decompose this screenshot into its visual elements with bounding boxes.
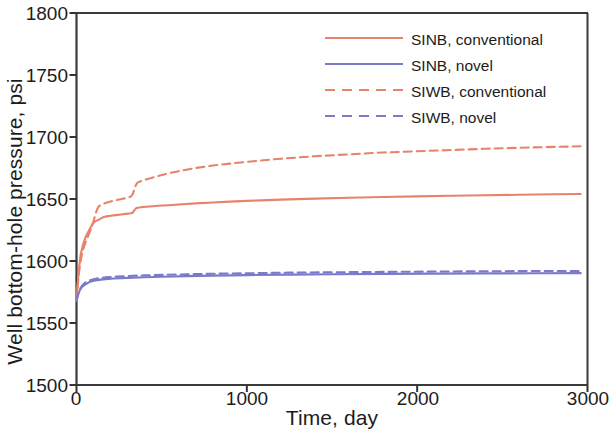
y-tick-label-1750: 1750 (6, 65, 68, 87)
series-line-3 (77, 271, 581, 301)
legend-label-siwb-novel: SIWB, novel (411, 109, 496, 127)
series-line-0 (77, 194, 581, 301)
x-tick-label-1000: 1000 (212, 388, 282, 410)
x-tick-label-0: 0 (41, 388, 111, 410)
y-tick-label-1650: 1650 (6, 189, 68, 211)
y-tick-label-1600: 1600 (6, 251, 68, 273)
legend-swatches (325, 38, 403, 116)
legend-label-sinb-conventional: SINB, conventional (411, 31, 543, 49)
y-tick-label-1700: 1700 (6, 127, 68, 149)
y-tick-label-1800: 1800 (6, 3, 68, 25)
x-tick-label-3000: 3000 (553, 388, 613, 410)
x-axis-title: Time, day (76, 406, 588, 430)
data-series-layer (77, 146, 581, 300)
y-tick-label-1550: 1550 (6, 313, 68, 335)
legend-label-sinb-novel: SINB, novel (411, 57, 493, 75)
series-line-1 (77, 273, 581, 301)
x-tick-label-2000: 2000 (383, 388, 453, 410)
legend-label-siwb-conventional: SIWB, conventional (411, 83, 546, 101)
